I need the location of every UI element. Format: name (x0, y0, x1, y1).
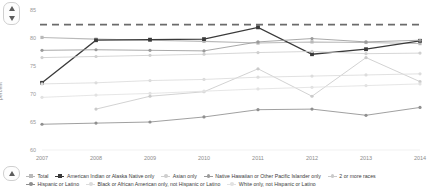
data-point-marker (364, 47, 368, 51)
data-point-marker (202, 90, 205, 93)
legend-item[interactable]: Total (26, 172, 48, 180)
y-tick-label: 85 (20, 7, 36, 13)
y-tick-label: 65 (20, 119, 36, 125)
legend-item[interactable]: American Indian or Alaska Native only (55, 172, 154, 180)
x-tick-label: 2013 (351, 155, 381, 161)
data-point-marker (418, 82, 421, 85)
data-point-marker (40, 123, 43, 126)
data-point-marker (94, 122, 97, 125)
data-point-marker (202, 53, 205, 56)
legend-swatch-icon (328, 173, 337, 180)
legend-item[interactable]: Asian only (161, 172, 196, 180)
legend-item[interactable]: White only, not Hispanic or Latino (227, 180, 315, 188)
data-series (40, 82, 421, 99)
data-point-marker (148, 49, 151, 52)
data-point-marker (148, 54, 151, 57)
legend-item-label: Hispanic or Latino (38, 180, 80, 188)
legend-swatch-icon (26, 181, 35, 188)
data-point-marker (418, 52, 421, 55)
legend-swatch-icon (161, 173, 170, 180)
plot-area (40, 4, 422, 152)
data-point-marker (310, 86, 313, 89)
data-point-marker (418, 39, 421, 42)
up-arrow-icon[interactable] (9, 6, 15, 11)
data-point-marker (40, 96, 43, 99)
data-point-marker (310, 50, 313, 53)
x-tick-label: 2014 (405, 155, 431, 161)
data-series (40, 25, 422, 84)
legend-item[interactable]: Native Hawaiian or Other Pacific Islande… (204, 172, 321, 180)
data-point-marker (94, 94, 97, 97)
data-point-marker (364, 114, 367, 117)
data-point-marker (310, 74, 313, 77)
up-arrow-icon[interactable] (9, 171, 15, 176)
data-point-marker (256, 40, 259, 43)
legend-item-label: Asian only (173, 172, 197, 180)
data-point-marker (418, 106, 421, 109)
legend-item-label: Native Hawaiian or Other Pacific Islande… (215, 172, 321, 180)
data-point-marker (40, 36, 43, 39)
data-point-marker (148, 92, 151, 95)
scroll-spinner-bottom[interactable] (3, 166, 20, 181)
legend-swatch-icon (227, 181, 236, 188)
scroll-spinner-top[interactable] (3, 2, 20, 25)
legend-item[interactable]: Hispanic or Latino (26, 180, 79, 188)
data-point-marker (364, 52, 367, 55)
data-point-marker (40, 49, 43, 52)
data-point-marker (40, 56, 43, 59)
y-tick-label: 80 (20, 35, 36, 41)
data-point-marker (202, 49, 205, 52)
data-point-marker (364, 56, 367, 59)
data-point-marker (94, 81, 97, 84)
legend-item-label: White only, not Hispanic or Latino (239, 180, 316, 188)
data-point-marker (40, 82, 43, 85)
data-point-marker (202, 78, 205, 81)
legend-swatch-icon (55, 173, 64, 180)
series-line (42, 51, 420, 57)
data-point-marker (256, 51, 259, 54)
data-point-marker (364, 84, 367, 87)
data-point-marker (310, 108, 313, 111)
data-point-marker (148, 120, 151, 123)
data-series (40, 72, 421, 85)
series-line (42, 74, 420, 84)
data-point-marker (94, 38, 98, 42)
data-point-marker (256, 87, 259, 90)
data-point-marker (94, 55, 97, 58)
legend-item[interactable]: Black or African American only, not Hisp… (86, 180, 220, 188)
legend-item-label: Total (38, 172, 49, 180)
data-point-marker (202, 115, 205, 118)
data-point-marker (148, 95, 151, 98)
y-tick-label: 75 (20, 63, 36, 69)
legend-item-label: 2 or more races (339, 172, 375, 180)
data-point-marker (310, 95, 313, 98)
legend-item[interactable]: 2 or more races (328, 172, 376, 180)
legend-item-label: Black or African American only, not Hisp… (98, 180, 221, 188)
data-point-marker (148, 38, 152, 42)
legend-item-label: American Indian or Alaska Native only (67, 172, 154, 180)
data-point-marker (310, 37, 313, 40)
data-point-marker (256, 108, 259, 111)
data-point-marker (94, 108, 97, 111)
data-point-marker (148, 79, 151, 82)
y-tick-label: 60 (20, 147, 36, 153)
data-series (94, 56, 421, 111)
x-tick-label: 2012 (297, 155, 327, 161)
x-tick-label: 2011 (243, 155, 273, 161)
data-point-marker (364, 73, 367, 76)
data-point-marker (94, 48, 97, 51)
legend-swatch-icon (204, 173, 213, 180)
x-tick-label: 2007 (27, 155, 57, 161)
chart-legend: TotalAmerican Indian or Alaska Native on… (26, 172, 424, 188)
y-tick-label: 70 (20, 91, 36, 97)
data-point-marker (256, 25, 260, 29)
data-point-marker (418, 72, 421, 75)
x-tick-label: 2008 (81, 155, 111, 161)
series-line (96, 58, 420, 110)
series-line (42, 107, 420, 124)
y-axis-title: percent (0, 82, 3, 100)
data-point-marker (364, 40, 367, 43)
down-arrow-icon[interactable] (9, 16, 15, 21)
data-point-marker (202, 37, 206, 41)
